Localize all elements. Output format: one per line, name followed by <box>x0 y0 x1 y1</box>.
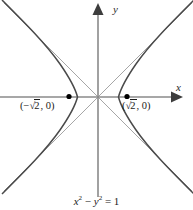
x-axis-label: x <box>176 82 181 93</box>
right-focus-label: (√2, 0) <box>122 99 151 112</box>
equation-caption: x2 − y2 = 1 <box>0 196 193 207</box>
equation-minus-sign: − <box>85 195 91 207</box>
equation-y-exponent: 2 <box>99 194 103 202</box>
left-focus-label: (−√2, 0) <box>20 99 54 112</box>
equation-equals-one: = 1 <box>105 195 119 207</box>
y-axis-label: y <box>113 4 118 15</box>
hyperbola-figure: y x (−√2, 0) (√2, 0) x2 − y2 = 1 <box>0 0 193 210</box>
y-axis-arrowhead <box>93 3 104 15</box>
left-focus-rest: , 0) <box>40 100 54 111</box>
x-axis-arrowhead <box>171 92 183 103</box>
equation-x-exponent: 2 <box>79 194 83 202</box>
right-focus-rest: , 0) <box>137 100 151 111</box>
focus-left-point <box>66 94 71 99</box>
